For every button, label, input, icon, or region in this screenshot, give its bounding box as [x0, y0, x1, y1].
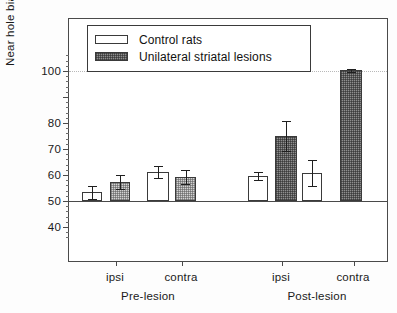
error-bar-cap-bottom [116, 189, 125, 190]
chart-figure: Near hole bias (%) 1008070605040 Control… [0, 0, 397, 313]
error-bar-cap-bottom [88, 199, 97, 200]
error-bar-cap-top [116, 175, 125, 176]
error-bar-cap-top [154, 166, 163, 167]
x-axis-label: contra [164, 271, 197, 283]
y-tick-minor [66, 180, 70, 181]
y-tick-minor [66, 92, 70, 93]
y-tick-minor [66, 211, 70, 212]
y-axis-tick-label: 50 [48, 195, 61, 207]
legend-swatch-lesion-icon [95, 52, 128, 61]
y-axis-title: Near hole bias (%) [4, 50, 16, 66]
error-bar-line [92, 186, 93, 200]
y-tick-minor [66, 154, 70, 155]
error-bar-cap-top [347, 69, 356, 70]
error-bar-cap-bottom [181, 184, 190, 185]
error-bar-cap-top [308, 160, 317, 161]
y-tick-minor [66, 66, 70, 67]
plot-area: 1008070605040 Control rats Unilateral st… [68, 18, 388, 262]
error-bar-cap-top [88, 186, 97, 187]
y-axis-tick-label: 60 [48, 169, 61, 181]
error-bar-cap-bottom [282, 151, 291, 152]
error-bar-line [158, 166, 159, 178]
y-axis-tick-label: 100 [41, 65, 61, 77]
x-tick [182, 261, 183, 266]
y-tick-minor [66, 191, 70, 192]
chart-legend: Control rats Unilateral striatal lesions [87, 25, 311, 72]
y-tick-minor [66, 87, 70, 88]
error-bar-line [186, 170, 187, 184]
y-tick-major [63, 123, 69, 124]
y-tick-major [63, 175, 69, 176]
legend-label-control: Control rats [139, 33, 202, 47]
y-tick-minor [66, 118, 70, 119]
error-bar-line [312, 160, 313, 186]
x-axis-label: ipsi [106, 271, 124, 283]
y-tick-minor [66, 159, 70, 160]
x-axis-label: ipsi [272, 271, 290, 283]
y-tick-minor [66, 232, 70, 233]
error-bar-cap-bottom [308, 186, 317, 187]
legend-swatch-control-icon [95, 35, 128, 44]
error-bar-line [258, 172, 259, 179]
y-tick-minor [66, 102, 70, 103]
error-bar-line [120, 175, 121, 189]
error-bar-cap-top [282, 121, 291, 122]
y-axis-tick-label: 70 [48, 143, 61, 155]
x-axis-label: contra [336, 271, 369, 283]
y-tick-minor [66, 206, 70, 207]
legend-label-lesion: Unilateral striatal lesions [139, 50, 272, 64]
bar-lesion [340, 70, 362, 201]
y-tick-major [63, 149, 69, 150]
error-bar-cap-top [254, 172, 263, 173]
error-bar-cap-bottom [347, 72, 356, 73]
y-tick-minor [66, 144, 70, 145]
y-tick-minor [66, 196, 70, 197]
x-tick [282, 261, 283, 266]
x-axis-group-label: Pre-lesion [121, 290, 175, 302]
x-tick [116, 261, 117, 266]
legend-item-lesion: Unilateral striatal lesions [95, 48, 303, 65]
y-axis-tick-label: 40 [48, 221, 61, 233]
baseline-50 [69, 201, 387, 202]
y-tick-major [63, 227, 69, 228]
error-bar-cap-top [181, 170, 190, 171]
y-tick-major [63, 201, 69, 202]
y-tick-minor [66, 81, 70, 82]
x-axis-group-label: Post-lesion [287, 290, 346, 302]
legend-item-control: Control rats [95, 31, 303, 48]
y-tick-minor [66, 133, 70, 134]
error-bar-cap-bottom [154, 178, 163, 179]
y-tick-minor [66, 61, 70, 62]
y-tick-minor [66, 76, 70, 77]
y-tick-minor [66, 113, 70, 114]
y-tick-minor [66, 222, 70, 223]
y-tick-minor [66, 55, 70, 56]
y-tick-minor [66, 139, 70, 140]
error-bar-line [286, 121, 287, 151]
y-tick-major [63, 71, 69, 72]
y-tick-minor [66, 185, 70, 186]
y-tick-minor [66, 128, 70, 129]
y-tick-major [63, 97, 69, 98]
y-axis-tick-label: 80 [48, 117, 61, 129]
x-tick [354, 261, 355, 266]
error-bar-cap-bottom [254, 180, 263, 181]
y-tick-minor [66, 107, 70, 108]
y-tick-minor [66, 170, 70, 171]
y-tick-minor [66, 237, 70, 238]
y-tick-minor [66, 217, 70, 218]
y-tick-minor [66, 165, 70, 166]
